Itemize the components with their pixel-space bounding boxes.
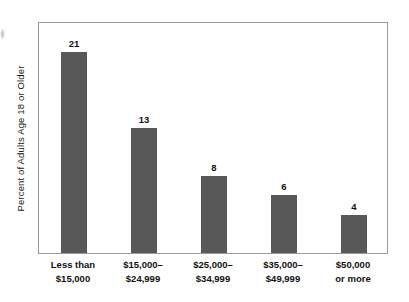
bar-group: 6 (249, 23, 319, 253)
x-axis-label: $25,000– $34,999 (173, 258, 253, 285)
x-axis-label-line2: $24,999 (103, 272, 183, 286)
bar-value-label: 21 (69, 39, 80, 49)
bar-value-label: 8 (211, 163, 216, 173)
x-axis-label-line2: $15,000 (33, 272, 113, 286)
y-axis-title-text: Percent of Adults Age 18 or Older (16, 65, 27, 211)
plot-frame: 21 13 8 6 4 (38, 22, 388, 254)
bar-value-label: 4 (351, 202, 356, 212)
x-axis-label-line1: $15,000– (123, 259, 163, 270)
x-axis-labels: Less than $15,000 $15,000– $24,999 $25,0… (38, 258, 388, 298)
bar-group: 8 (179, 23, 249, 253)
bar-chart-figure: Percent of Adults Age 18 or Older 21 13 … (0, 0, 409, 302)
bar-rect (131, 128, 157, 253)
bar-group: 13 (109, 23, 179, 253)
bar-rect (201, 176, 227, 253)
y-axis-title: Percent of Adults Age 18 or Older (14, 22, 28, 254)
bar-group: 4 (319, 23, 389, 253)
x-axis-label: $35,000– $49,999 (243, 258, 323, 285)
x-axis-label-line1: $25,000– (193, 259, 233, 270)
x-axis-label: Less than $15,000 (33, 258, 113, 285)
x-axis-label: $50,000 or more (313, 258, 393, 285)
x-axis-label-line2: $49,999 (243, 272, 323, 286)
x-axis-label-line1: Less than (51, 259, 95, 270)
bar-value-label: 13 (139, 115, 150, 125)
x-axis-label-line2: or more (313, 272, 393, 286)
x-axis-label: $15,000– $24,999 (103, 258, 183, 285)
bar-rect (61, 52, 87, 253)
bar-rect (341, 215, 367, 253)
x-axis-label-line1: $35,000– (263, 259, 303, 270)
bar-value-label: 6 (281, 182, 286, 192)
bar-group: 21 (39, 23, 109, 253)
x-axis-label-line2: $34,999 (173, 272, 253, 286)
bar-rect (271, 195, 297, 253)
scan-artifact (0, 28, 5, 40)
plot-area: 21 13 8 6 4 (39, 23, 387, 253)
x-axis-label-line1: $50,000 (336, 259, 370, 270)
